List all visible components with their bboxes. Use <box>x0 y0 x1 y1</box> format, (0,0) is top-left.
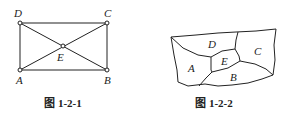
label-c: C <box>104 7 112 19</box>
border-a-d <box>171 37 211 57</box>
map-label-c: C <box>254 45 262 57</box>
vertex-d <box>18 21 22 25</box>
label-e: E <box>56 51 64 63</box>
figure-1-2-1 <box>18 21 109 72</box>
label-a: A <box>15 74 23 86</box>
border-e-c <box>235 49 240 61</box>
vertex-c <box>105 21 109 25</box>
vertex-b <box>105 68 109 72</box>
border-a-e <box>211 57 212 72</box>
border-d-c <box>235 32 238 49</box>
map-label-a: A <box>187 62 195 74</box>
caption-1-2-1: 图 1-2-1 <box>44 97 82 109</box>
map-label-d: D <box>207 38 216 50</box>
border-b-c <box>240 61 273 75</box>
map-label-b: B <box>230 71 237 83</box>
map-label-e: E <box>220 55 228 67</box>
label-b: B <box>104 74 111 86</box>
label-d: D <box>13 7 22 19</box>
figures-canvas: D C E A B 图 1-2-1 D C E A B 图 1-2-2 <box>0 0 284 113</box>
vertex-a <box>18 68 22 72</box>
caption-1-2-2: 图 1-2-2 <box>195 97 233 109</box>
vertex-e <box>61 44 65 48</box>
